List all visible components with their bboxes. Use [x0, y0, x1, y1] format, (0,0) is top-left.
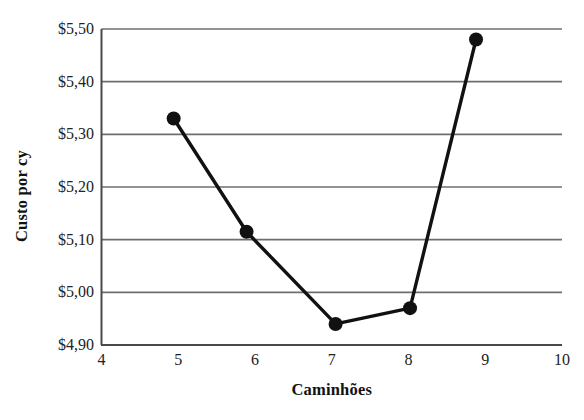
- data-point-marker: [403, 301, 417, 315]
- data-point-marker: [167, 112, 181, 126]
- y-axis-tick-label: $5,10: [32, 231, 94, 249]
- y-axis-tick-label: $5,30: [32, 125, 94, 143]
- x-axis-tick-label: 9: [481, 351, 489, 369]
- x-axis-tick-label: 6: [251, 351, 259, 369]
- data-point-marker: [240, 225, 254, 239]
- y-axis-tick-label: $5,00: [32, 283, 94, 301]
- gridlines-group: [102, 29, 563, 292]
- y-axis-tick-label: $5,40: [32, 73, 94, 91]
- y-axis-tick-label: $5,50: [32, 20, 94, 38]
- data-point-marker: [329, 317, 343, 331]
- x-axis-title: Caminhões: [291, 380, 372, 400]
- x-axis-tick-label: 5: [174, 351, 182, 369]
- x-axis-tick-label: 7: [328, 351, 336, 369]
- x-axis-tick-label: 10: [554, 351, 570, 369]
- line-chart: $4,90$5,00$5,10$5,20$5,30$5,40$5,50 4567…: [0, 0, 584, 420]
- x-axis-tick-label: 4: [98, 351, 106, 369]
- y-axis-title: Custo por cy: [12, 150, 32, 242]
- data-point-marker: [469, 33, 483, 47]
- y-axis-tick-label: $5,20: [32, 178, 94, 196]
- x-axis-tick-label: 8: [405, 351, 413, 369]
- y-axis-tick-label: $4,90: [32, 336, 94, 354]
- plot-area: [0, 0, 584, 420]
